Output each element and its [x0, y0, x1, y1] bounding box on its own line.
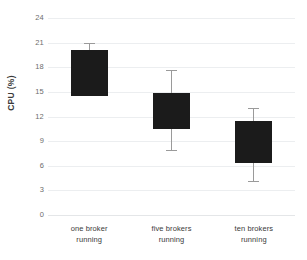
- y-axis-tick-label: 15: [18, 88, 44, 96]
- plot-area: [48, 18, 295, 215]
- y-axis-tick-label: 3: [18, 186, 44, 194]
- y-axis-tick-label: 0: [18, 211, 44, 219]
- bar-1[interactable]: [71, 50, 108, 96]
- gridline: [48, 215, 295, 216]
- cpu-usage-bar-chart: CPU (%) 03691215182124 one brokerrunning…: [0, 0, 307, 260]
- x-axis-tick-label: one brokerrunning: [47, 224, 131, 245]
- x-axis-tick-label-line: running: [212, 235, 296, 246]
- x-axis-tick-label-line: five brokers: [130, 224, 214, 235]
- gridline: [48, 190, 295, 191]
- bar-2[interactable]: [153, 93, 190, 129]
- y-axis-tick-labels: 03691215182124: [12, 18, 44, 215]
- y-axis-tick-label: 21: [18, 39, 44, 47]
- error-bar-cap-bottom: [248, 181, 259, 182]
- y-axis-tick-label: 6: [18, 162, 44, 170]
- x-axis-tick-label-line: one broker: [47, 224, 131, 235]
- gridline: [48, 18, 295, 19]
- bar-3[interactable]: [235, 121, 272, 164]
- x-axis-tick-label-line: running: [130, 235, 214, 246]
- error-bar-cap-top: [248, 108, 259, 109]
- x-axis-tick-label: five brokersrunning: [130, 224, 214, 245]
- x-axis-tick-label: ten brokersrunning: [212, 224, 296, 245]
- x-axis-tick-label-line: running: [47, 235, 131, 246]
- gridline: [48, 166, 295, 167]
- y-axis-tick-label: 24: [18, 14, 44, 22]
- y-axis-tick-label: 18: [18, 63, 44, 71]
- error-bar-cap-top: [84, 43, 95, 44]
- y-axis-tick-label: 12: [18, 113, 44, 121]
- error-bar-cap-top: [166, 70, 177, 71]
- x-axis-tick-label-line: ten brokers: [212, 224, 296, 235]
- y-axis-tick-label: 9: [18, 137, 44, 145]
- error-bar-cap-bottom: [166, 150, 177, 151]
